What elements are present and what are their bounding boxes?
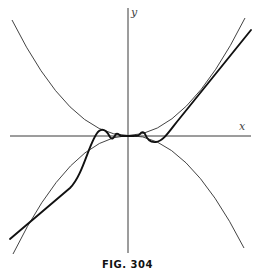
x-axis-label: x xyxy=(239,120,246,133)
oscillating-curve xyxy=(10,30,251,239)
y-axis-label: y xyxy=(130,6,138,19)
figure-diagram: x y xyxy=(0,0,255,274)
figure-caption: FIG. 304 xyxy=(0,259,255,270)
